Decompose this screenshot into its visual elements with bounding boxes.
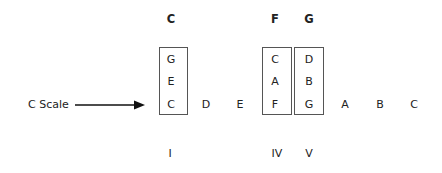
roman-numeral-iv: IV: [272, 147, 283, 161]
chord-g-third: B: [305, 75, 313, 89]
scale-note-1: C: [167, 98, 175, 112]
roman-numeral-v: V: [305, 147, 313, 161]
scale-note-7: B: [376, 98, 384, 112]
chord-header-g: G: [304, 12, 313, 26]
chord-c-fifth: G: [167, 53, 176, 67]
roman-numeral-i: I: [168, 147, 171, 161]
chord-f-third: A: [271, 75, 279, 89]
chord-c-third: E: [168, 75, 175, 89]
scale-note-2: D: [202, 98, 210, 112]
scale-note-5: G: [305, 98, 314, 112]
chord-header-c: C: [167, 12, 175, 26]
chord-g-fifth: D: [305, 53, 313, 67]
scale-note-6: A: [341, 98, 349, 112]
scale-note-3: E: [237, 98, 244, 112]
chord-f-fifth: C: [271, 53, 279, 67]
chord-header-f: F: [271, 12, 279, 26]
scale-note-4: F: [272, 98, 278, 112]
scale-label: C Scale: [28, 98, 69, 112]
scale-note-8: C: [410, 98, 418, 112]
arrow-right-icon: [74, 99, 146, 111]
